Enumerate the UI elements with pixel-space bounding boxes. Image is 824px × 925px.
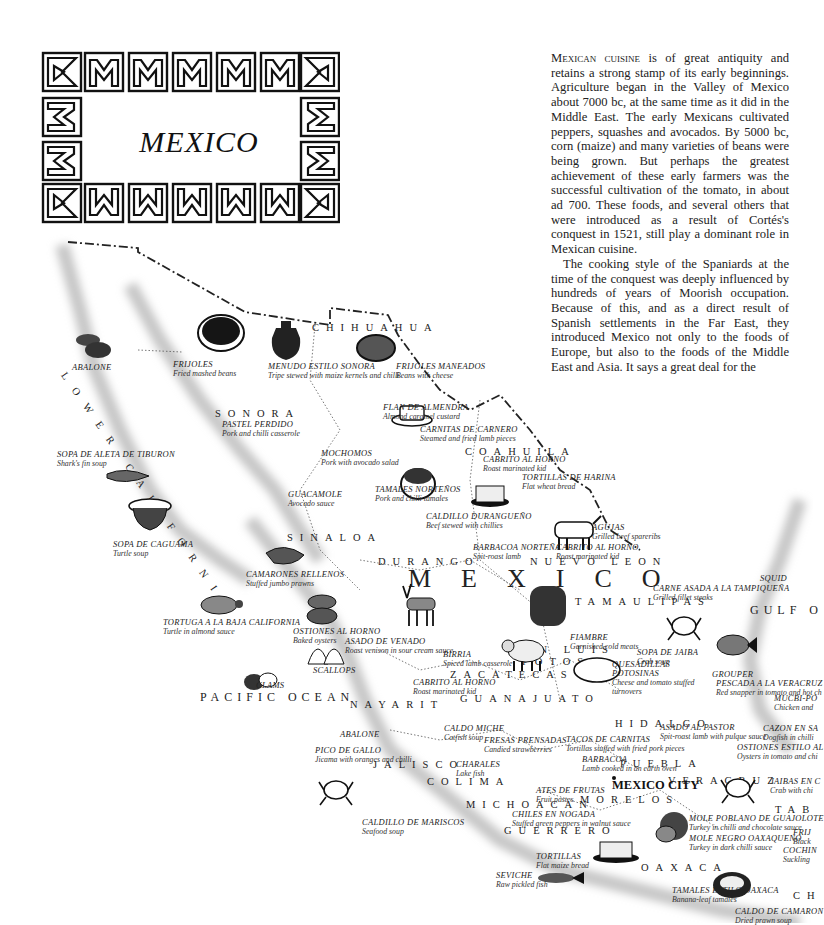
beans-plate-icon	[355, 333, 397, 363]
region-chiapas-partial: CH	[793, 890, 822, 901]
page-title: MEXICO	[40, 125, 340, 159]
clay-pot-icon	[268, 318, 304, 362]
dish-label: GUACAMOLEAvocado sauce	[288, 490, 342, 508]
region-sinaloa: SINALOA	[287, 532, 382, 543]
dish-label: MOCHOMOSPork with avocado salad	[321, 449, 399, 467]
dish-label: CALDILLO DE MARISCOSSeafood soup	[362, 818, 464, 836]
dish-label: JAIBAS EN CCrab with chi	[770, 777, 821, 795]
title-ornament-frame: MEXICO	[40, 50, 340, 225]
dish-label: CABRITO AL HORNORoast marinated kid	[556, 543, 639, 561]
crab-icon	[318, 775, 354, 809]
dish-label: CARNITAS DE CARNEROSteamed and fried lam…	[420, 425, 518, 443]
oysters-icon	[305, 592, 339, 626]
dish-label: COCHINSuckling	[783, 846, 817, 864]
dish-label: CAZON EN SADogfish in chilli	[763, 724, 818, 742]
crab-icon	[666, 608, 702, 644]
grouper-fish-icon	[715, 630, 757, 660]
dish-label: FRIJOLES MANEADOSBeans with cheese	[396, 362, 485, 380]
dish-label: CALDO DE CAMARONDried prawn soup	[735, 907, 823, 925]
dish-label: MENUDO ESTILO SONORATripe stewed with ma…	[268, 362, 399, 380]
turtle-icon	[195, 594, 245, 616]
dish-label: CARNE ASADA A LA TAMPIQUEÑAGrilled fille…	[653, 584, 790, 602]
dish-label: BARBACOALamb cooked in an earth oven	[582, 755, 677, 773]
dish-label: BARBACOA NORTEÑASpit-roast lamb	[473, 543, 561, 561]
dish-label: FRESAS PRENSADASCandied strawberries	[484, 736, 566, 754]
turkey-icon	[650, 810, 690, 850]
sea-gulf-of-mexico: GULF O	[750, 603, 823, 618]
dish-label: TORTILLAS DE HARINAFlat wheat bread	[522, 473, 616, 491]
dish-label: MUCBI-POChicken and	[774, 694, 817, 712]
dish-label: CALDILLO DURANGUEÑOBeef stewed with chil…	[426, 512, 532, 530]
intro-paragraph-1: Mexican cuisine is of great antiquity an…	[551, 51, 789, 257]
dish-label: SOPA DE ALETA DE TIBURONShark's fin soup	[57, 450, 175, 468]
prawn-icon	[264, 543, 310, 569]
dish-label: TORTILLASFlat maize bread	[536, 852, 589, 870]
dish-label: CABRITO AL HORNORoast marinated kid	[413, 678, 496, 696]
dish-label: SCALLOPS	[313, 666, 356, 675]
dish-label: TAMALES NORTEÑOSPork and chilli tamales	[375, 485, 461, 503]
dish-label: ABALONE	[72, 363, 111, 372]
capital-mexico-city: MEXICO CITY	[612, 778, 699, 793]
tortilla-stack-icon	[592, 838, 640, 864]
dish-label: TAMALES ESTILO OAXACABanana-leaf tamales	[672, 886, 779, 904]
dish-label: TACOS DE CARNITASTortillas stuffed with …	[566, 735, 685, 753]
sea-pacific-ocean: PACIFIC OCEAN	[200, 690, 354, 705]
dish-label: PASTEL PERDIDOPork and chilli casserole	[222, 420, 300, 438]
dish-label: QUESADILLAS POTOSINASCheese and tomato s…	[612, 660, 702, 696]
bean-bowl-icon	[196, 313, 246, 355]
region-chihuahua: CHIHUAHUA	[312, 322, 439, 333]
dish-label: CHILES EN NOGADAStuffed green peppers in…	[512, 810, 631, 828]
dish-label: FRIJOLESFried mashed beans	[173, 360, 236, 378]
dish-label: SOPA DE CAGUAMATurtle soup	[113, 540, 193, 558]
dish-label: SEVICHERaw pickled fish	[496, 871, 548, 889]
crab-icon	[720, 773, 756, 807]
dish-label: OSTIONES ESTILO ALOysters in tomato and …	[737, 743, 823, 761]
dish-label: FIAMBREGarnished cold meats	[570, 633, 638, 651]
dish-label: CAMARONES RELLENOSStuffed jumbo prawns	[246, 570, 344, 588]
dish-label: FLAN DE ALMENDRAAlmond caramel custard	[383, 403, 468, 421]
dish-label: ASADO DE VENADORoast venison in sour cre…	[345, 637, 453, 655]
food-map: LOWER CALIFORNIA CHIHUAHUA SONORA COAHUI…	[0, 230, 813, 923]
dish-label: CHARALESLake fish	[456, 760, 500, 778]
dish-label: ATES DE FRUTASFruit pastes	[536, 786, 605, 804]
fiambre-mold-icon	[526, 582, 570, 630]
dish-label: CLAMS	[256, 681, 284, 690]
dish-label: PICO DE GALLOJicama with oranges and chi…	[315, 746, 412, 764]
tortilla-stack-icon	[470, 480, 510, 508]
turtle-soup-bowl-icon	[127, 496, 173, 536]
lead-smallcaps: Mexican cuisine	[551, 51, 640, 65]
region-sonora: SONORA	[215, 408, 300, 419]
dish-label: AGUJASGrilled beef spareribs	[592, 523, 661, 541]
region-nayarit: NAYARIT	[350, 699, 444, 710]
capital-dot-icon	[612, 776, 616, 780]
dish-label: CABRITO AL HORNORoast marinated kid	[483, 455, 566, 473]
dish-label: BIRRIASpiced lamb casserole	[443, 650, 512, 668]
shark-icon	[105, 466, 155, 486]
paragraph-1-body: is of great antiquity and retains a stro…	[551, 51, 789, 256]
deer-icon	[395, 580, 440, 630]
abalone-icon	[74, 330, 114, 360]
dish-label: ABALONE	[340, 730, 379, 739]
dish-label: SQUID	[760, 574, 787, 583]
dish-label: TORTUGA A LA BAJA CALIFORNIATurtle in al…	[163, 618, 300, 636]
